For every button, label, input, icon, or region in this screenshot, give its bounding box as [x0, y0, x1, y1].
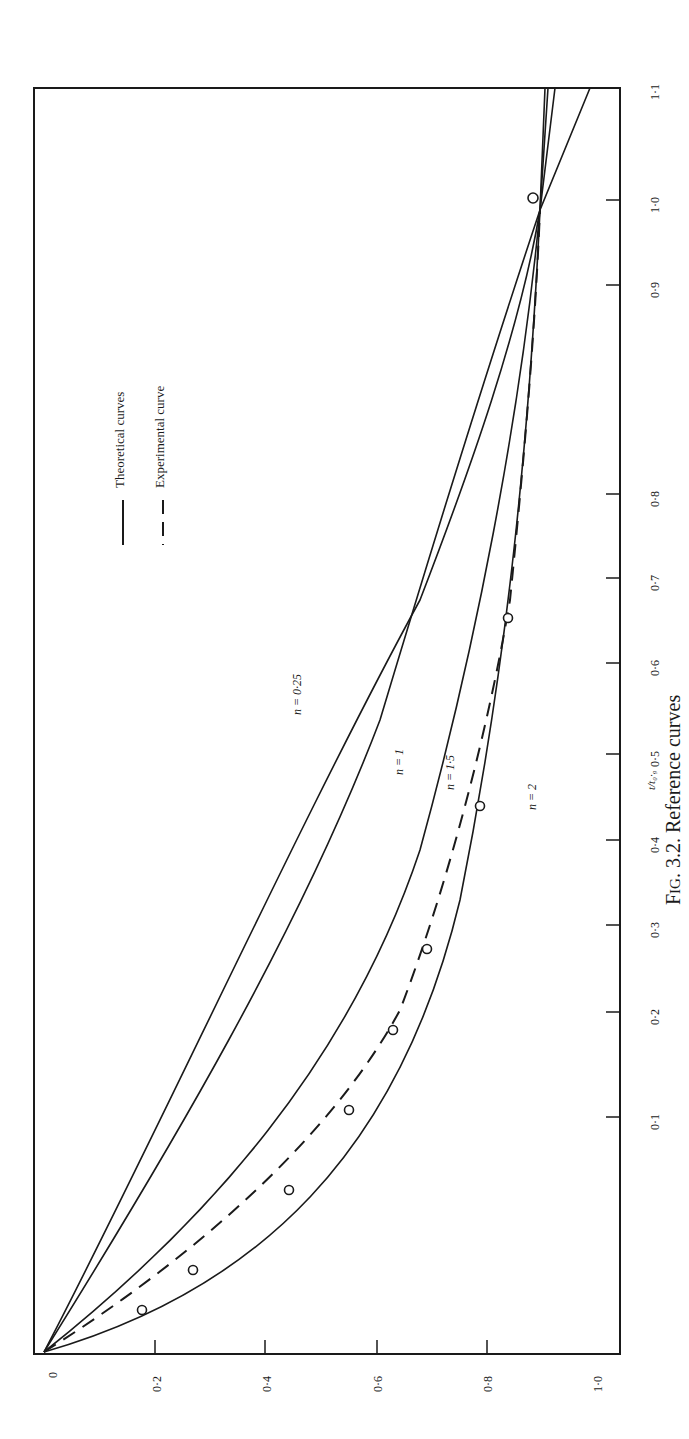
curve-label-n-0-25: n = 0·25 — [290, 674, 305, 715]
legend-experimental-label: Experimental curve — [152, 386, 168, 488]
curve-n-1-5 — [44, 88, 548, 1352]
caption-smallcaps: IG — [667, 878, 683, 894]
y-tick-label: 0·4 — [260, 1376, 275, 1392]
x-tick-label: 0·7 — [648, 575, 663, 591]
y-axis-ticks — [155, 1340, 487, 1354]
experimental-curve — [44, 210, 540, 1352]
curve-label-n-1-5: n = 1·5 — [443, 755, 458, 790]
x-tick-label: 0·5 — [648, 751, 663, 767]
reference-curves-chart — [0, 0, 689, 1439]
x-tick-label: 0·9 — [648, 282, 663, 298]
x-tick-label: 0·2 — [648, 1009, 663, 1025]
theoretical-curves — [44, 88, 590, 1352]
curve-label-n-1: n = 1 — [392, 749, 407, 775]
figure-caption: FIG. 3.2. Reference curves — [662, 695, 685, 905]
caption-rest: . 3.2. Reference curves — [662, 695, 684, 878]
y-tick-label: 0·6 — [371, 1376, 386, 1392]
x-axis-label: t/t₀·₉ — [645, 770, 657, 790]
x-axis-ticks — [606, 200, 620, 1117]
curve-n-1 — [44, 88, 555, 1352]
curve-n-0-25 — [44, 88, 590, 1352]
y-tick-label: 0·8 — [481, 1376, 496, 1392]
x-tick-label: 0·3 — [648, 922, 663, 938]
x-tick-label: 0·1 — [648, 1114, 663, 1130]
legend-theoretical-label: Theoretical curves — [112, 392, 128, 488]
x-tick-label: 1·0 — [648, 197, 663, 213]
x-tick-label: 0·6 — [648, 660, 663, 676]
y-tick-label: 1·0 — [591, 1376, 606, 1392]
x-tick-label: 0·8 — [648, 491, 663, 507]
y-tick-label: 0 — [46, 1372, 61, 1378]
y-tick-label: 0·2 — [150, 1376, 165, 1392]
curve-n-2 — [44, 88, 545, 1352]
curve-label-n-2: n = 2 — [525, 784, 540, 810]
caption-prefix: F — [662, 894, 684, 905]
x-tick-label: 1·1 — [648, 84, 663, 100]
legend-samples — [123, 500, 163, 545]
x-tick-label: 0·4 — [648, 837, 663, 853]
